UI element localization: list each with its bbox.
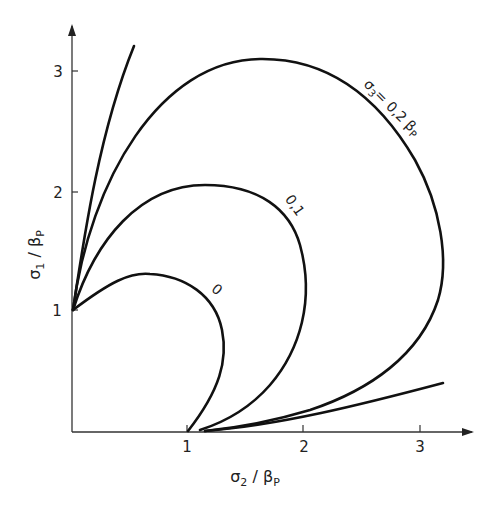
curve-label-0.1: 0,1 [282, 191, 308, 218]
curve-label-0: 0 [209, 280, 226, 298]
curve-upper-envelope [73, 46, 134, 310]
failure-envelope-diagram: 1 2 3 1 2 3 σ2 / βP σ1 / βP 0 0,1 σ3= 0,… [0, 0, 504, 508]
x-tick-2: 2 [299, 438, 309, 456]
curve-lower-envelope [205, 383, 443, 431]
curve-label-0.2: σ3= 0,2 βP [359, 76, 423, 140]
y-tick-3: 3 [53, 63, 63, 81]
curve-sigma3-0 [73, 274, 224, 431]
y-tick-2: 2 [53, 184, 63, 202]
curve-sigma3-0.1 [73, 185, 306, 430]
y-ticks: 1 2 3 [52, 63, 78, 320]
y-tick-1: 1 [52, 302, 62, 320]
x-tick-1: 1 [182, 438, 192, 456]
curve-sigma3-0.2 [73, 59, 443, 431]
x-axis-label: σ2 / βP [230, 467, 280, 489]
y-axis-label: σ1 / βP [25, 230, 47, 280]
x-tick-3: 3 [415, 438, 425, 456]
